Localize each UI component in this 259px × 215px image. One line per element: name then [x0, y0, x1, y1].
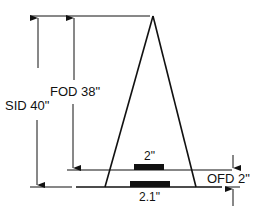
object-size-label: 2"	[144, 149, 155, 163]
image-bar	[130, 181, 170, 187]
fod-label: FOD 38"	[50, 84, 101, 99]
sid-label: SID 40"	[5, 98, 50, 113]
magnification-diagram: SID 40" FOD 38" OFD 2" 2" 2.1"	[0, 0, 259, 215]
image-size-label: 2.1"	[139, 190, 160, 204]
ofd-label: OFD 2"	[207, 171, 250, 186]
beam-right-edge	[153, 16, 196, 187]
object-bar	[134, 164, 164, 170]
